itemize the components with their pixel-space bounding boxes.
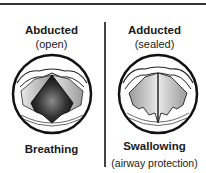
panel-caption: Breathing (0, 143, 103, 155)
panel-title: Abducted (0, 24, 103, 36)
panel-adducted: Adducted (sealed) Swallowing (airway pro… (103, 0, 206, 173)
panel-subtitle: (sealed) (103, 38, 206, 50)
panel-abducted: Abducted (open) Breathing (0, 0, 103, 173)
panel-title: Adducted (103, 24, 206, 36)
panel-subtitle: (open) (0, 38, 103, 50)
panel-caption: Swallowing (103, 140, 206, 152)
vocal-folds-open-diagram (11, 53, 93, 135)
vocal-folds-sealed-diagram (117, 53, 199, 135)
panel-caption-detail: (airway protection) (103, 157, 206, 169)
